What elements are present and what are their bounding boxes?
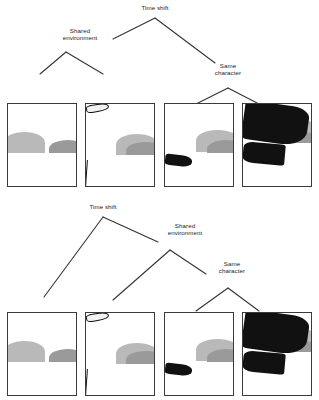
panel-man-sunglasses-neck — [7, 312, 77, 396]
panel-man-sunglasses-neck — [7, 103, 77, 187]
edge-timeshift-to-shared — [113, 18, 155, 39]
edge-samechar-to-panel4 — [228, 88, 259, 104]
edge-shared-to-panel2 — [66, 52, 103, 74]
edge-shared-to-samechar — [170, 250, 206, 274]
panel-girl-pointing — [85, 103, 155, 187]
bottom-tree-edges — [0, 200, 319, 320]
top-tree-edges — [0, 0, 319, 120]
edge-samechar-to-panel3 — [196, 288, 228, 311]
edge-samechar-to-panel3 — [196, 88, 228, 104]
edge-samechar-to-panel4 — [228, 288, 259, 311]
panel-man-arm-extended — [164, 103, 234, 187]
figure-two-shot-sequence-trees: Time shift Shared environment Same chara… — [0, 0, 319, 400]
edge-shared-to-panel1 — [40, 52, 66, 74]
panel-hands-closeup-watch — [242, 312, 312, 396]
edge-timeshift-to-shared — [103, 217, 158, 242]
panel-man-arm-extended — [164, 312, 234, 396]
edge-timeshift-to-samechar — [155, 18, 215, 63]
top-diagram: Time shift Shared environment Same chara… — [0, 0, 319, 198]
edge-shared-to-panel2 — [113, 250, 170, 300]
panel-hands-closeup-watch — [242, 103, 312, 187]
bottom-panel-row — [0, 312, 319, 398]
edge-timeshift-to-panel1 — [44, 217, 103, 297]
panel-girl-pointing — [85, 312, 155, 396]
bottom-diagram: Time shift Shared environment Same chara… — [0, 200, 319, 400]
top-panel-row — [0, 103, 319, 189]
